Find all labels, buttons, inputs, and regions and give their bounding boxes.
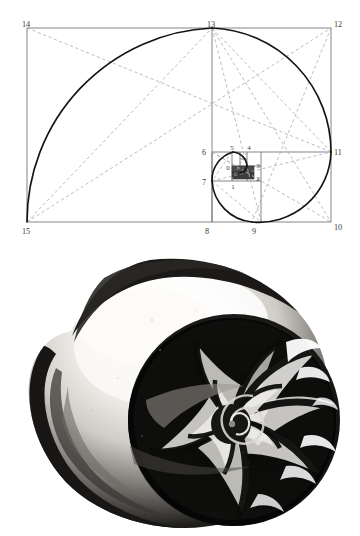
vertex-label-9: 9 — [252, 227, 256, 236]
vertex-label-6: 6 — [202, 148, 206, 157]
vertex-label-12: 12 — [334, 20, 342, 29]
vertex-label-15: 15 — [22, 227, 30, 236]
vertex-labels: 14 13 12 11 10 15 9 8 7 6 5 4 3 2 1 0 — [22, 20, 342, 236]
nautilus-shell-photograph — [0, 250, 360, 536]
page-root: 14 13 12 11 10 15 9 8 7 6 5 4 3 2 1 0 — [0, 0, 360, 536]
vertex-label-1: 1 — [231, 183, 235, 191]
vertex-label-0: 0 — [226, 164, 230, 172]
vertex-label-11: 11 — [334, 148, 342, 157]
vertex-label-2: 2 — [256, 175, 260, 183]
golden-spiral-diagram: 14 13 12 11 10 15 9 8 7 6 5 4 3 2 1 0 — [0, 0, 360, 250]
construction-diagonals — [27, 28, 331, 222]
vertex-label-7: 7 — [202, 178, 206, 187]
vertex-label-14: 14 — [22, 20, 30, 29]
vertex-label-13: 13 — [207, 20, 215, 29]
vertex-label-5: 5 — [230, 144, 234, 152]
vertex-label-10: 10 — [334, 223, 342, 232]
vertex-label-3: 3 — [256, 162, 260, 170]
vertex-label-4: 4 — [247, 144, 251, 152]
vertex-label-8: 8 — [205, 227, 209, 236]
